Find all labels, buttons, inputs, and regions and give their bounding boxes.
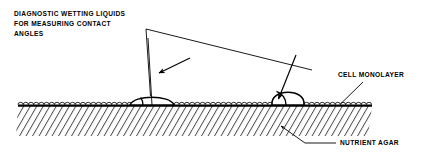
contact-angle-diagram: DIAGNOSTIC WETTING LIQUIDS FOR MEASURING… [0,0,432,157]
wetting-liquids-line-1: DIAGNOSTIC WETTING LIQUIDS [14,10,126,18]
diagram-canvas: DIAGNOSTIC WETTING LIQUIDS FOR MEASURING… [0,0,432,157]
leader-diagonal-to-right-droplet [146,29,312,70]
cell-monolayer-label: CELL MONOLAYER [338,71,404,78]
caption-wetting-liquids: DIAGNOSTIC WETTING LIQUIDS FOR MEASURING… [14,10,126,37]
high-contact-angle-droplet [272,91,304,105]
leader-cell-monolayer [341,82,363,104]
nutrient-agar-label: NUTRIENT AGAR [340,139,399,146]
wetting-liquids-line-3: ANGLES [14,30,44,37]
nutrient-agar-body [10,104,380,140]
cell-bumps-path [18,102,372,104]
low-contact-angle-droplet [130,38,174,105]
droplet-right-profile [272,92,304,105]
wetting-liquids-line-2: FOR MEASURING CONTACT [14,20,111,27]
cell-monolayer-surface [18,102,372,105]
arrow-to-left-droplet [159,58,190,73]
